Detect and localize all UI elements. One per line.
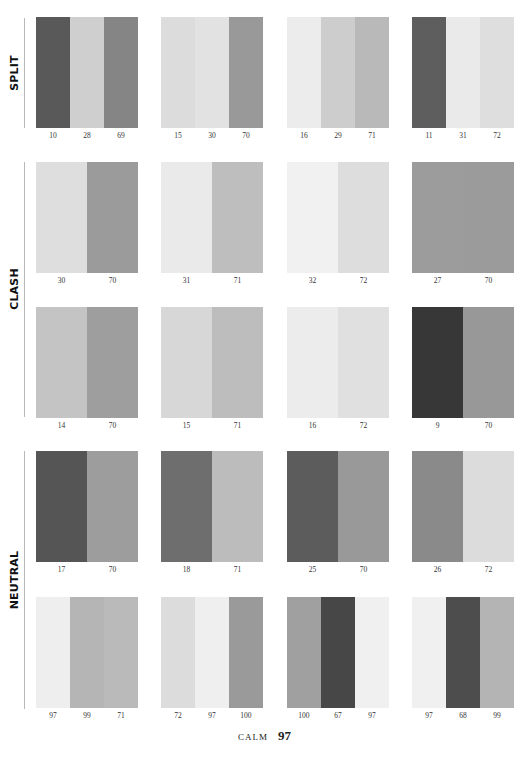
- color-stripe: [412, 162, 463, 273]
- swatch-number-labels: 2770: [412, 276, 514, 285]
- color-stripe: [161, 307, 212, 418]
- color-number: 70: [87, 421, 138, 430]
- color-stripe: [287, 597, 321, 708]
- color-stripe: [480, 17, 514, 128]
- swatch-number-labels: 970: [412, 421, 514, 430]
- color-stripe: [480, 597, 514, 708]
- color-number: 70: [463, 276, 514, 285]
- swatch-number-labels: 1672: [287, 421, 389, 430]
- color-number: 11: [412, 131, 446, 140]
- color-number: 14: [36, 421, 87, 430]
- swatch-number-labels: 3272: [287, 276, 389, 285]
- color-number: 27: [412, 276, 463, 285]
- color-swatch: [36, 162, 138, 273]
- color-number: 70: [338, 565, 389, 574]
- color-number: 71: [212, 276, 263, 285]
- color-stripe: [355, 17, 389, 128]
- section-rule: [24, 18, 25, 128]
- color-number: 28: [70, 131, 104, 140]
- footer-section-name: CALM: [238, 732, 268, 742]
- color-stripe: [287, 17, 321, 128]
- color-number: 70: [463, 421, 514, 430]
- color-swatch: [412, 597, 514, 708]
- color-stripe: [321, 17, 355, 128]
- color-stripe: [229, 17, 263, 128]
- page-footer: CALM 97: [0, 726, 529, 744]
- color-number: 16: [287, 421, 338, 430]
- color-stripe: [338, 162, 389, 273]
- swatch-number-labels: 3171: [161, 276, 263, 285]
- page-number: 97: [278, 728, 291, 743]
- color-swatch: [287, 17, 389, 128]
- color-stripe: [87, 451, 138, 562]
- color-number: 71: [104, 711, 138, 720]
- color-swatch: [161, 451, 263, 562]
- color-stripe: [412, 17, 446, 128]
- color-stripe: [36, 17, 70, 128]
- color-stripe: [321, 597, 355, 708]
- color-number: 97: [36, 711, 70, 720]
- section-label: SPLIT: [8, 55, 21, 91]
- color-number: 100: [229, 711, 263, 720]
- color-swatch: [36, 17, 138, 128]
- color-number: 9: [412, 421, 463, 430]
- color-swatch: [36, 307, 138, 418]
- color-stripe: [104, 17, 138, 128]
- color-number: 69: [104, 131, 138, 140]
- color-stripe: [87, 162, 138, 273]
- color-number: 68: [446, 711, 480, 720]
- color-number: 18: [161, 565, 212, 574]
- section-rule: [24, 451, 25, 709]
- color-stripe: [36, 307, 87, 418]
- color-swatch: [287, 162, 389, 273]
- swatch-number-labels: 3070: [36, 276, 138, 285]
- color-number: 70: [87, 565, 138, 574]
- color-swatch: [161, 307, 263, 418]
- color-number: 25: [287, 565, 338, 574]
- color-stripe: [338, 451, 389, 562]
- color-number: 32: [287, 276, 338, 285]
- color-stripe: [70, 17, 104, 128]
- swatch-number-labels: 1006797: [287, 711, 389, 720]
- color-number: 16: [287, 131, 321, 140]
- color-number: 30: [36, 276, 87, 285]
- color-stripe: [70, 597, 104, 708]
- color-stripe: [463, 451, 514, 562]
- color-stripe: [161, 597, 195, 708]
- color-swatch: [412, 162, 514, 273]
- section-label: CLASH: [8, 268, 21, 310]
- swatch-number-labels: 2672: [412, 565, 514, 574]
- section-rule: [24, 162, 25, 417]
- color-stripe: [446, 17, 480, 128]
- color-stripe: [36, 451, 87, 562]
- color-stripe: [463, 162, 514, 273]
- swatch-number-labels: 1470: [36, 421, 138, 430]
- color-stripe: [412, 451, 463, 562]
- color-number: 71: [212, 421, 263, 430]
- color-swatch: [287, 451, 389, 562]
- color-swatch: [36, 451, 138, 562]
- color-number: 10: [36, 131, 70, 140]
- section-label: NEUTRAL: [8, 551, 21, 610]
- color-stripe: [412, 597, 446, 708]
- color-swatch: [287, 597, 389, 708]
- color-number: 72: [161, 711, 195, 720]
- swatch-number-labels: 1571: [161, 421, 263, 430]
- color-stripe: [287, 307, 338, 418]
- color-stripe: [161, 451, 212, 562]
- color-number: 70: [229, 131, 263, 140]
- color-stripe: [287, 162, 338, 273]
- color-stripe: [212, 451, 263, 562]
- color-number: 70: [87, 276, 138, 285]
- color-number: 72: [480, 131, 514, 140]
- color-stripe: [355, 597, 389, 708]
- color-number: 29: [321, 131, 355, 140]
- color-number: 15: [161, 421, 212, 430]
- color-stripe: [412, 307, 463, 418]
- swatch-number-labels: 153070: [161, 131, 263, 140]
- color-number: 71: [355, 131, 389, 140]
- color-swatch: [161, 597, 263, 708]
- color-number: 26: [412, 565, 463, 574]
- swatch-number-labels: 976899: [412, 711, 514, 720]
- color-stripe: [463, 307, 514, 418]
